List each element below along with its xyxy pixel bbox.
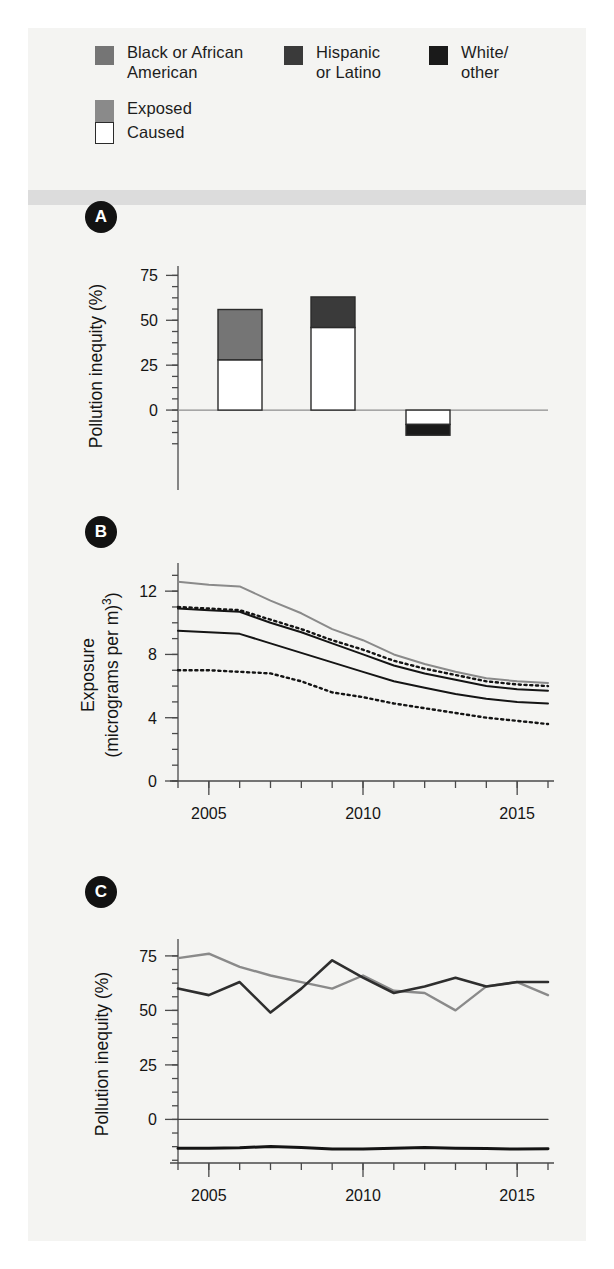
panel-a: A Pollution inequity (%)0255075: [28, 198, 586, 508]
panel-a-ytick-label: 25: [140, 357, 158, 374]
legend-swatch-hispanic-icon: [284, 46, 303, 65]
ytick-label: 0: [148, 1111, 157, 1128]
panel-a-ytick-label: 50: [140, 312, 158, 329]
data-series-line: [178, 631, 548, 704]
panel-c: C Pollution inequity (%)0255075200520102…: [28, 873, 586, 1241]
xtick-label: 2015: [499, 1187, 535, 1204]
panel-b-chart: Exposure(micrograms per m)3)048122005201…: [28, 513, 586, 873]
panel-a-bar: [406, 410, 450, 435]
panel-a-ytick-label: 0: [149, 402, 158, 419]
legend-label-white: White/ other: [461, 42, 571, 82]
ytick-label: 0: [148, 773, 157, 790]
data-series-line: [178, 960, 548, 1012]
legend-label-exposed: Exposed: [127, 98, 192, 118]
figure-legend: Black or African American Hispanic or La…: [28, 28, 586, 173]
panel-b-badge: B: [85, 516, 117, 548]
legend-label-hispanic: Hispanic or Latino: [316, 42, 426, 82]
panel-c-chart: Pollution inequity (%)025507520052010201…: [28, 873, 586, 1241]
legend-swatch-exposed-icon: [95, 100, 114, 122]
b-ylabel: Exposure(micrograms per m)3): [78, 592, 122, 757]
data-series-line: [178, 1146, 548, 1149]
ylabel-line: (micrograms per m)3): [100, 592, 122, 757]
ylabel-line: Exposure: [78, 638, 98, 712]
c-ylabel: Pollution inequity (%): [92, 972, 112, 1136]
ytick-label: 50: [139, 1002, 157, 1019]
legend-swatch-white-icon: [429, 46, 448, 65]
ytick-label: 12: [139, 583, 157, 600]
panel-a-segment-caused: [311, 327, 355, 410]
panel-a-chart: Pollution inequity (%)0255075: [28, 198, 586, 508]
xtick-label: 2005: [191, 1187, 227, 1204]
panel-a-bar: [218, 310, 262, 411]
ytick-label: 8: [148, 646, 157, 663]
legend-label-caused: Caused: [127, 122, 184, 142]
panel-a-segment-exposed: [311, 297, 355, 328]
ytick-label: 25: [139, 1057, 157, 1074]
data-series-line: [178, 582, 548, 683]
ytick-label: 75: [139, 948, 157, 965]
panel-a-ylabel: Pollution inequity (%): [86, 284, 106, 448]
panel-a-segment-caused: [218, 360, 262, 410]
data-series-line: [178, 607, 548, 686]
xtick-label: 2010: [345, 805, 381, 822]
panel-a-segment-caused: [406, 410, 450, 424]
panel-a-ytick-label: 75: [140, 267, 158, 284]
legend-swatch-caused-icon: [95, 122, 114, 144]
panel-a-segment-exposed: [406, 424, 450, 435]
data-series-line: [178, 954, 548, 1011]
ytick-label: 4: [148, 710, 157, 727]
figure-page: Black or African American Hispanic or La…: [28, 28, 586, 1241]
legend-swatch-black-icon: [95, 46, 114, 65]
xtick-label: 2010: [345, 1187, 381, 1204]
panel-a-badge: A: [85, 201, 117, 233]
panel-c-badge: C: [85, 876, 117, 908]
panel-a-segment-exposed: [218, 310, 262, 360]
xtick-label: 2015: [499, 805, 535, 822]
panel-b: B Exposure(micrograms per m)3)0481220052…: [28, 513, 586, 873]
xtick-label: 2005: [191, 805, 227, 822]
panel-a-bar: [311, 297, 355, 410]
ylabel-line: Pollution inequity (%): [92, 972, 112, 1136]
legend-label-black: Black or African American: [127, 42, 277, 82]
